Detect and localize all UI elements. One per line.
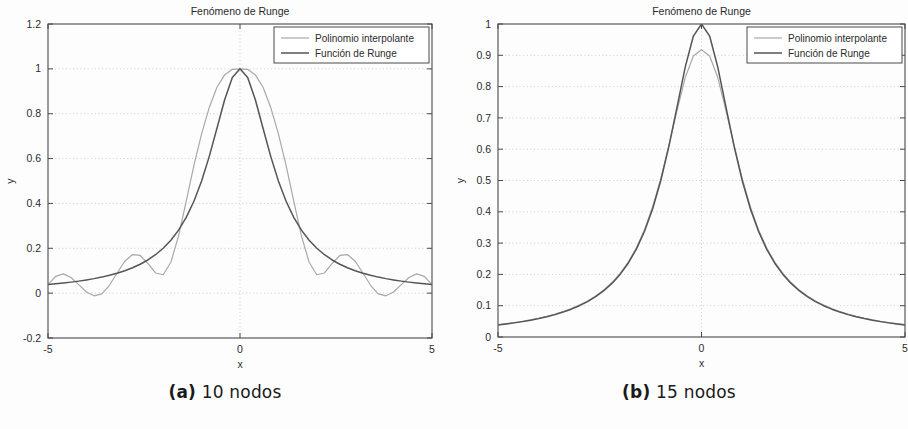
y-axis-label: y — [4, 178, 16, 184]
x-tick-label: 0 — [699, 342, 705, 354]
y-tick-label: 0.3 — [476, 237, 491, 249]
y-tick-label: 1 — [35, 62, 41, 74]
y-tick-label: 0.2 — [26, 242, 41, 254]
y-tick-label: 0.8 — [26, 107, 41, 119]
y-axis-label: y — [454, 177, 466, 183]
legend-label: Función de Runge — [315, 48, 397, 59]
caption-text-a: 10 nodos — [202, 382, 282, 402]
figure-panel-a: Fenómeno de Runge-0.200.20.40.60.811.2-5… — [0, 0, 450, 380]
caption-tag-a: (a) — [168, 382, 196, 402]
y-tick-label: 0.4 — [476, 205, 491, 217]
figure-page: Fenómeno de Runge-0.200.20.40.60.811.2-5… — [0, 0, 908, 429]
y-tick-label: 0.6 — [476, 143, 491, 155]
series-line-funcion-de-runge — [48, 69, 432, 285]
figure-panel-b: Fenómeno de Runge00.10.20.30.40.50.60.70… — [450, 0, 908, 380]
chart-legend: Polinomio interpolanteFunción de Runge — [747, 27, 902, 63]
x-tick-label: -5 — [493, 342, 502, 354]
y-tick-label: 0.1 — [476, 299, 491, 311]
x-axis-label: x — [237, 358, 243, 370]
y-tick-label: 0 — [35, 287, 41, 299]
x-tick-label: 5 — [902, 342, 908, 354]
legend-label: Función de Runge — [788, 48, 870, 59]
x-axis-label: x — [699, 357, 705, 369]
caption-text-b: 15 nodos — [656, 382, 736, 402]
y-tick-label: 1 — [485, 18, 491, 30]
runge-chart-b: Fenómeno de Runge00.10.20.30.40.50.60.70… — [450, 0, 908, 380]
y-tick-label: 0.5 — [476, 174, 491, 186]
y-tick-label: 1.2 — [26, 18, 41, 30]
figure-caption-b: (b) 15 nodos — [450, 382, 908, 402]
y-tick-label: 0 — [485, 331, 491, 343]
y-tick-label: 0.7 — [476, 112, 491, 124]
plot-container-b: Fenómeno de Runge00.10.20.30.40.50.60.70… — [450, 0, 908, 380]
chart-legend: Polinomio interpolanteFunción de Runge — [274, 27, 429, 63]
x-tick-label: 0 — [237, 343, 243, 355]
chart-title: Fenómeno de Runge — [191, 5, 290, 17]
y-tick-label: 0.6 — [26, 152, 41, 164]
legend-label: Polinomio interpolante — [315, 33, 414, 44]
caption-tag-b: (b) — [622, 382, 650, 402]
runge-chart-a: Fenómeno de Runge-0.200.20.40.60.811.2-5… — [0, 0, 450, 380]
y-tick-label: 0.2 — [476, 268, 491, 280]
y-tick-label: 0.4 — [26, 197, 41, 209]
y-tick-label: 0.8 — [476, 80, 491, 92]
y-tick-label: -0.2 — [23, 332, 41, 344]
x-tick-label: 5 — [429, 343, 435, 355]
x-tick-label: -5 — [43, 343, 52, 355]
legend-label: Polinomio interpolante — [788, 33, 887, 44]
y-tick-label: 0.9 — [476, 49, 491, 61]
plot-container-a: Fenómeno de Runge-0.200.20.40.60.811.2-5… — [0, 0, 450, 380]
chart-title: Fenómeno de Runge — [652, 5, 751, 17]
figure-caption-a: (a) 10 nodos — [0, 382, 450, 402]
